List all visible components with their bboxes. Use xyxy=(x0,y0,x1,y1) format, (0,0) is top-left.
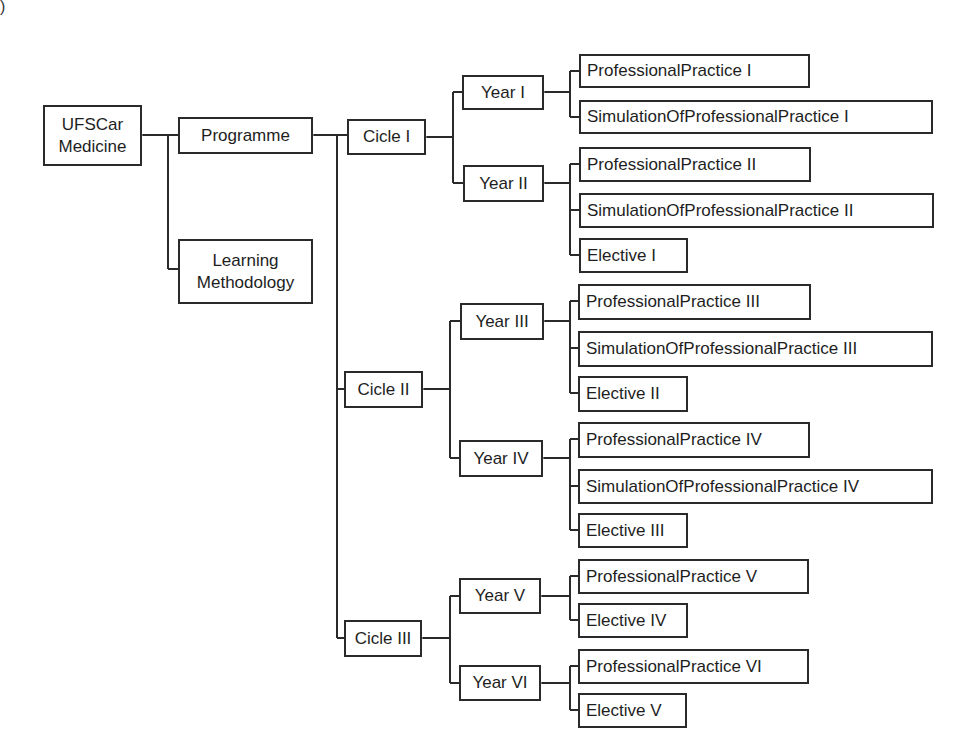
leaf-label: Elective II xyxy=(586,383,660,405)
node-programme: Programme xyxy=(178,117,313,154)
leaf-label: SimulationOfProfessionalPractice IV xyxy=(586,476,859,498)
leaf-professional-practice-6: ProfessionalPractice VI xyxy=(578,649,809,684)
leaf-elective-3: Elective III xyxy=(578,513,688,548)
leaf-simulation-professional-practice-4: SimulationOfProfessionalPractice IV xyxy=(578,469,933,504)
node-ufscar-medicine: UFSCar Medicine xyxy=(43,105,142,166)
leaf-label: Elective III xyxy=(586,520,664,542)
leaf-label: Elective V xyxy=(586,700,662,722)
node-cicle-2: Cicle II xyxy=(344,371,423,408)
node-year-2: Year II xyxy=(463,165,544,202)
leaf-elective-2: Elective II xyxy=(578,376,688,412)
node-label: Cicle III xyxy=(355,628,412,650)
leaf-professional-practice-3: ProfessionalPractice III xyxy=(578,284,811,320)
node-label: Cicle II xyxy=(358,379,410,401)
node-cicle-3: Cicle III xyxy=(344,620,422,657)
leaf-elective-1: Elective I xyxy=(579,238,688,273)
leaf-professional-practice-2: ProfessionalPractice II xyxy=(579,147,811,182)
node-year-3: Year III xyxy=(460,303,544,340)
node-label: Year II xyxy=(479,173,528,195)
node-year-1: Year I xyxy=(462,75,544,110)
node-label-line: UFSCar xyxy=(62,114,123,136)
leaf-label: ProfessionalPractice V xyxy=(586,566,757,588)
node-label: Year I xyxy=(481,82,525,104)
node-label: Year III xyxy=(475,311,528,333)
leaf-professional-practice-5: ProfessionalPractice V xyxy=(578,559,809,594)
node-cicle-1: Cicle I xyxy=(347,119,426,155)
node-label-line: Medicine xyxy=(58,136,126,158)
leaf-label: ProfessionalPractice VI xyxy=(586,656,762,678)
leaf-elective-4: Elective IV xyxy=(578,603,688,638)
node-label: Year IV xyxy=(473,448,528,470)
node-label-line: Learning xyxy=(212,250,278,272)
leaf-simulation-professional-practice-2: SimulationOfProfessionalPractice II xyxy=(579,193,934,228)
node-year-5: Year V xyxy=(459,578,541,614)
leaf-label: SimulationOfProfessionalPractice III xyxy=(586,338,857,360)
node-label-line: Methodology xyxy=(197,272,294,294)
node-year-6: Year VI xyxy=(459,665,541,701)
node-year-4: Year IV xyxy=(459,440,543,477)
leaf-label: ProfessionalPractice III xyxy=(586,291,760,313)
leaf-label: Elective I xyxy=(587,245,656,267)
node-learning-methodology: Learning Methodology xyxy=(178,239,313,304)
leaf-professional-practice-4: ProfessionalPractice IV xyxy=(578,422,810,458)
node-label: Year VI xyxy=(472,672,527,694)
leaf-label: ProfessionalPractice I xyxy=(587,60,751,82)
leaf-elective-5: Elective V xyxy=(578,693,687,728)
leaf-professional-practice-1: ProfessionalPractice I xyxy=(579,54,810,88)
leaf-label: SimulationOfProfessionalPractice II xyxy=(587,200,853,222)
leaf-label: ProfessionalPractice II xyxy=(587,154,756,176)
node-label: Year V xyxy=(475,585,525,607)
node-label: Programme xyxy=(201,125,290,147)
leaf-simulation-professional-practice-1: SimulationOfProfessionalPractice I xyxy=(579,100,933,134)
leaf-label: Elective IV xyxy=(586,610,666,632)
leaf-label: ProfessionalPractice IV xyxy=(586,429,762,451)
leaf-simulation-professional-practice-3: SimulationOfProfessionalPractice III xyxy=(578,331,933,367)
hierarchy-diagram: ) xyxy=(0,0,970,751)
leaf-label: SimulationOfProfessionalPractice I xyxy=(587,106,849,128)
node-label: Cicle I xyxy=(363,126,410,148)
